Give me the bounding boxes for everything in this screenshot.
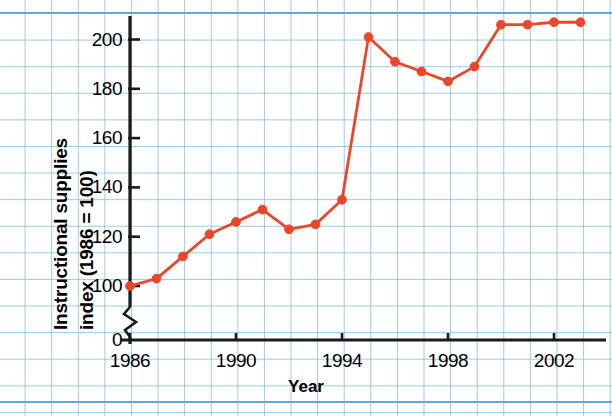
x-axis-tick-label: 1998: [408, 350, 488, 372]
line-chart: Instructional supplies index (1986 = 100…: [0, 0, 612, 416]
data-point-marker[interactable]: [576, 18, 585, 27]
data-point-marker[interactable]: [391, 57, 400, 66]
data-point-marker[interactable]: [497, 20, 506, 29]
data-point-marker[interactable]: [338, 195, 347, 204]
data-point-marker[interactable]: [470, 62, 479, 71]
data-point-marker[interactable]: [232, 218, 241, 227]
y-axis-tick-label: 200: [72, 29, 122, 51]
x-axis-tick-label: 1994: [302, 350, 382, 372]
y-axis-tick-label: 120: [72, 226, 122, 248]
y-axis-origin-label: 0: [72, 329, 122, 351]
y-axis-tick-label: 140: [72, 176, 122, 198]
y-axis-tick-label: 160: [72, 127, 122, 149]
x-axis-tick-label: 1990: [196, 350, 276, 372]
data-point-marker[interactable]: [152, 274, 161, 283]
y-axis-tick-label: 100: [72, 275, 122, 297]
y-axis-tick-label: 180: [72, 78, 122, 100]
data-point-marker[interactable]: [364, 33, 373, 42]
data-point-marker[interactable]: [523, 20, 532, 29]
data-point-marker[interactable]: [285, 225, 294, 234]
x-axis-tick-label: 1986: [90, 350, 170, 372]
data-point-marker[interactable]: [444, 77, 453, 86]
data-series-line: [130, 22, 581, 286]
data-point-marker[interactable]: [205, 230, 214, 239]
data-point-marker[interactable]: [550, 18, 559, 27]
x-axis-label: Year: [0, 377, 612, 397]
data-point-marker[interactable]: [311, 220, 320, 229]
data-point-marker[interactable]: [417, 67, 426, 76]
x-axis-tick-label: 2002: [514, 350, 594, 372]
y-axis-break-symbol: [124, 307, 136, 337]
data-point-marker[interactable]: [258, 205, 267, 214]
data-point-marker[interactable]: [126, 282, 135, 291]
data-point-marker[interactable]: [179, 252, 188, 261]
y-axis-label-line-1: Instructional supplies: [50, 138, 72, 330]
